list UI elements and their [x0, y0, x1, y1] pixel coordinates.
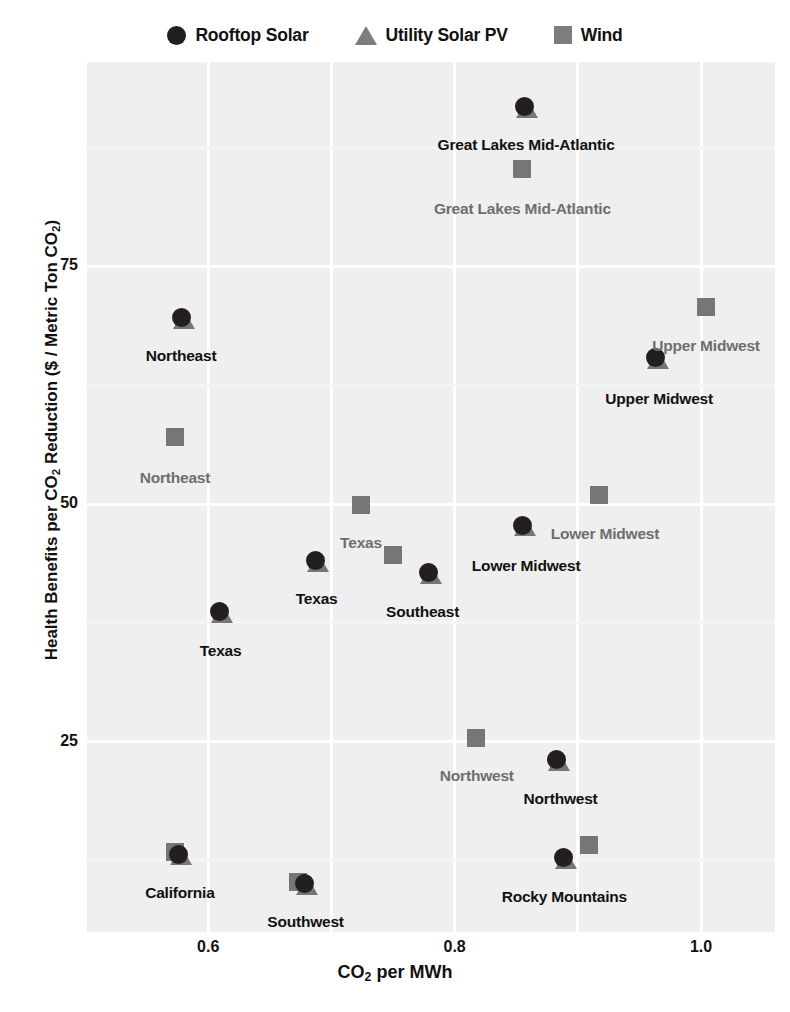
x-tick-label: 1.0 [690, 938, 712, 956]
x-tick-label: 0.6 [197, 938, 219, 956]
y-axis-title: Health Benefits per CO2 Reduction ($ / M… [42, 120, 62, 760]
x-axis-title: CO2 per MWh [0, 962, 790, 984]
x-axis-tick-labels: 0.60.81.0 [0, 0, 790, 1012]
x-tick-label: 0.8 [444, 938, 466, 956]
